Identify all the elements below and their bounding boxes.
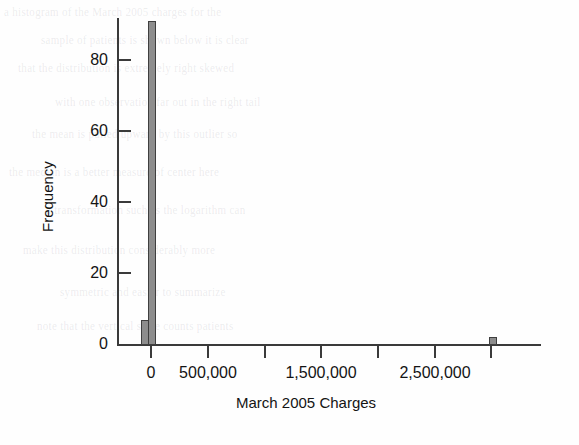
x-tick-1000000 <box>264 346 266 358</box>
y-tick-label-80: 80 <box>62 52 108 68</box>
histogram-bar-outlier <box>489 337 497 345</box>
y-axis-title: Frequency <box>40 161 55 232</box>
x-tick-label-500000: 500,000 <box>153 365 263 381</box>
y-tick-60 <box>119 130 131 132</box>
x-tick-1500000 <box>320 346 322 358</box>
x-tick-2000000 <box>377 346 379 358</box>
y-tick-label-20: 20 <box>62 265 108 281</box>
x-tick-label-1500000: 1,500,000 <box>261 365 381 381</box>
y-tick-label-40: 40 <box>62 194 108 210</box>
x-tick-label-2500000: 2,500,000 <box>375 365 495 381</box>
y-tick-80 <box>119 59 131 61</box>
y-tick-label-0: 0 <box>62 336 108 352</box>
x-tick-3000000 <box>490 346 492 358</box>
x-tick-2500000 <box>434 346 436 358</box>
y-tick-20 <box>119 272 131 274</box>
histogram-chart: 80 60 40 20 0 0 500,000 1,500,000 2,500,… <box>0 0 579 445</box>
x-axis-title: March 2005 Charges <box>236 395 376 410</box>
y-axis-line <box>117 18 119 346</box>
x-axis-line <box>117 344 541 346</box>
y-tick-label-60: 60 <box>62 123 108 139</box>
x-tick-500000 <box>207 346 209 358</box>
histogram-bar-bin-2 <box>148 21 156 345</box>
x-tick-0 <box>150 346 152 358</box>
y-tick-40 <box>119 201 131 203</box>
